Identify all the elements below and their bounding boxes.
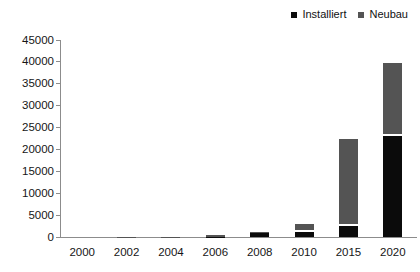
y-tick-35000 xyxy=(56,83,60,84)
y-tick-15000 xyxy=(56,171,60,172)
legend-label-installiert: Installiert xyxy=(302,9,346,20)
y-tick-5000 xyxy=(56,215,60,216)
y-tick-label-30000: 30000 xyxy=(8,100,54,112)
y-tick-25000 xyxy=(56,127,60,128)
legend-marker-installiert-icon xyxy=(291,12,297,18)
bar-segment-installiert-2010 xyxy=(295,232,314,237)
y-tick-label-10000: 10000 xyxy=(8,188,54,200)
y-tick-label-25000: 25000 xyxy=(8,122,54,134)
y-tick-label-15000: 15000 xyxy=(8,166,54,178)
stacked-bar-chart: Installiert Neubau 050001000015000200002… xyxy=(0,0,420,272)
y-tick-label-40000: 40000 xyxy=(8,56,54,68)
y-tick-40000 xyxy=(56,61,60,62)
x-tick-label-2008: 2008 xyxy=(238,247,282,259)
y-tick-label-5000: 5000 xyxy=(8,210,54,222)
x-tick-label-2015: 2015 xyxy=(326,247,370,259)
x-tick-label-2000: 2000 xyxy=(60,247,104,259)
legend-item-installiert: Installiert xyxy=(291,9,346,20)
y-axis-line xyxy=(60,40,61,238)
y-tick-label-35000: 35000 xyxy=(8,78,54,90)
y-tick-20000 xyxy=(56,149,60,150)
legend: Installiert Neubau xyxy=(291,9,408,20)
bar-segment-neubau-2010 xyxy=(295,224,314,229)
x-tick-label-2010: 2010 xyxy=(282,247,326,259)
y-tick-label-45000: 45000 xyxy=(8,35,54,47)
y-tick-45000 xyxy=(56,40,60,41)
y-tick-0 xyxy=(56,237,60,238)
bar-segment-neubau-2006 xyxy=(206,235,225,237)
bar-segment-installiert-2008 xyxy=(250,233,269,237)
y-tick-label-20000: 20000 xyxy=(8,144,54,156)
x-tick-label-2020: 2020 xyxy=(371,247,415,259)
bar-segment-neubau-2020 xyxy=(383,63,402,135)
bar-segment-installiert-2015 xyxy=(339,226,358,237)
x-tick-label-2004: 2004 xyxy=(149,247,193,259)
y-tick-10000 xyxy=(56,193,60,194)
bar-segment-neubau-2008 xyxy=(250,232,269,233)
legend-marker-neubau-icon xyxy=(358,12,364,18)
x-tick-label-2002: 2002 xyxy=(105,247,149,259)
x-axis-line xyxy=(57,237,417,238)
y-tick-label-0: 0 xyxy=(8,232,54,244)
legend-item-neubau: Neubau xyxy=(358,9,408,20)
x-tick-label-2006: 2006 xyxy=(193,247,237,259)
bar-segment-installiert-2020 xyxy=(383,136,402,237)
bar-segment-neubau-2015 xyxy=(339,139,358,225)
legend-label-neubau: Neubau xyxy=(369,9,408,20)
y-tick-30000 xyxy=(56,105,60,106)
